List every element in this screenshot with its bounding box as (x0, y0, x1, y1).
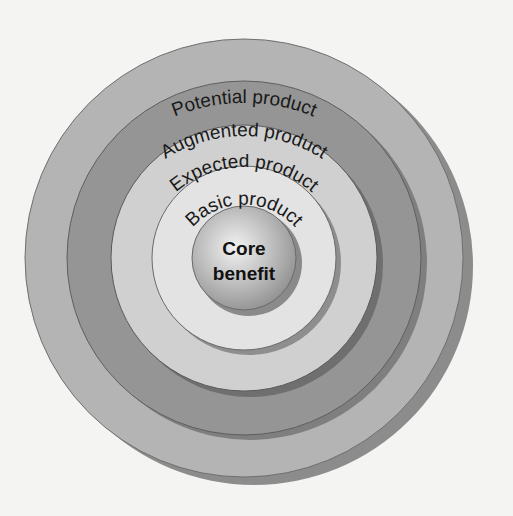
label-core-line2: benefit (213, 263, 276, 284)
product-levels-diagram: Potential product Augmented product Expe… (0, 0, 513, 516)
label-core-line1: Core (222, 238, 265, 259)
